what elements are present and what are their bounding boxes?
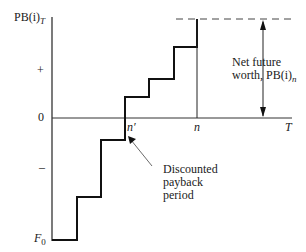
net-future-worth-label: Net future worth, PB(i)n (232, 56, 297, 82)
pointer-arrowhead-icon (128, 136, 136, 144)
balance-step-line (52, 19, 197, 240)
payback-period-label: Discounted payback period (163, 163, 218, 202)
x-axis-label: T (285, 121, 292, 134)
payback-pointer-line (131, 140, 152, 166)
f0-label: F0 (34, 232, 46, 245)
n-prime-label: n′ (127, 121, 136, 134)
y-axis-label: PB(i)T (14, 11, 45, 24)
n-label: n (194, 121, 200, 134)
arrow-up-icon (260, 20, 266, 30)
arrow-down-icon (260, 107, 266, 117)
payback-diagram (0, 0, 306, 252)
plus-label: + (37, 64, 44, 77)
minus-label: – (39, 161, 45, 174)
zero-label: 0 (38, 111, 44, 124)
